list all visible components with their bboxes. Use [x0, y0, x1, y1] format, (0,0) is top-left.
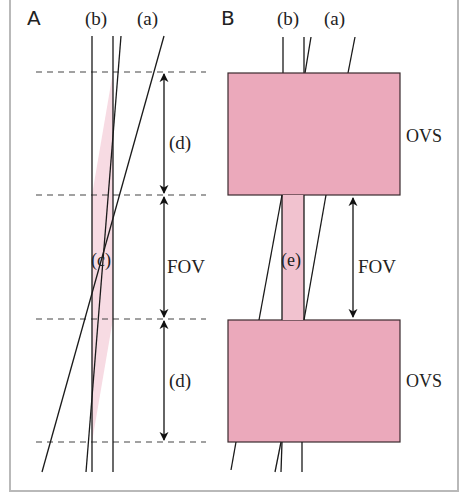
gap-d-bottom-label: (d) — [169, 371, 191, 390]
ovs-box-bottom — [228, 320, 400, 442]
ovs-bottom-label: OVS — [406, 372, 442, 390]
ovs-top-label: OVS — [406, 127, 442, 145]
panel-a-line-a-label: (a) — [137, 9, 158, 28]
region-c-label: (c) — [91, 251, 111, 269]
fov-b-label: FOV — [358, 257, 396, 276]
panel-b-line-b-label: (b) — [277, 9, 299, 28]
fov-a-label: FOV — [167, 257, 205, 276]
panel-a-line-b-label: (b) — [85, 9, 107, 28]
figure: A (b) (a) (c) (d) FOV (d) B (b) (a) (e) … — [0, 0, 464, 502]
panel-a-label: A — [27, 8, 41, 28]
diagram-canvas — [0, 0, 464, 502]
gap-d-top-label: (d) — [169, 133, 191, 152]
panel-b — [228, 37, 400, 472]
ovs-box-top — [228, 73, 400, 195]
region-e-label: (e) — [281, 251, 301, 269]
panel-b-line-a-label: (a) — [324, 9, 345, 28]
panel-a — [36, 36, 206, 472]
panel-b-label: B — [221, 8, 235, 28]
